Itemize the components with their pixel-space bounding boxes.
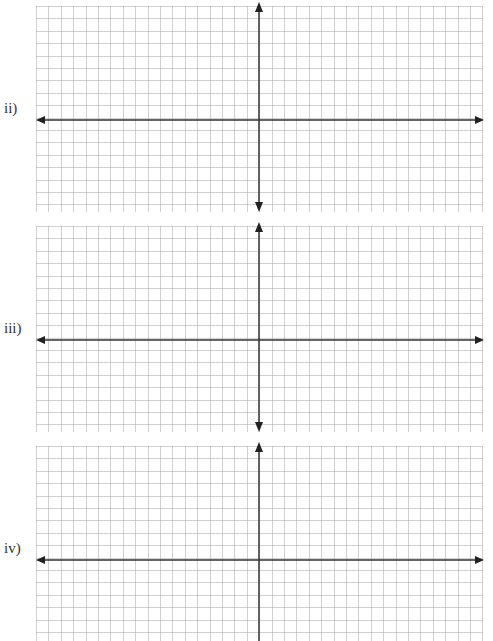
up-arrow-icon (255, 442, 263, 452)
coordinate-axes (0, 442, 493, 641)
up-arrow-icon (255, 222, 263, 232)
left-arrow-icon (36, 556, 45, 564)
graph-panel-ii: ii) (0, 2, 493, 212)
coordinate-axes (0, 2, 493, 212)
left-arrow-icon (36, 336, 45, 344)
graph-panel-iii: iii) (0, 222, 493, 432)
coordinate-axes (0, 222, 493, 432)
down-arrow-icon (255, 202, 263, 212)
left-arrow-icon (36, 116, 45, 124)
down-arrow-icon (255, 422, 263, 432)
right-arrow-icon (475, 336, 484, 344)
right-arrow-icon (475, 556, 484, 564)
right-arrow-icon (475, 116, 484, 124)
up-arrow-icon (255, 2, 263, 12)
graph-panel-iv: iv) (0, 442, 493, 641)
